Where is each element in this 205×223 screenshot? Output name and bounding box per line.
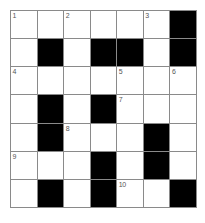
- grid-cell-open[interactable]: 8: [64, 124, 90, 151]
- grid-cell-open[interactable]: [11, 124, 37, 151]
- grid-cell-open[interactable]: [64, 67, 90, 94]
- grid-cell-open[interactable]: [117, 152, 143, 179]
- cell-number: 3: [145, 11, 149, 20]
- grid-cell-block: [144, 152, 170, 179]
- grid-cell-open[interactable]: [64, 39, 90, 66]
- grid-cell-open[interactable]: 9: [11, 152, 37, 179]
- grid-cell-open[interactable]: [38, 67, 64, 94]
- grid-cell-open[interactable]: [144, 95, 170, 122]
- cell-number: 5: [119, 67, 123, 76]
- grid-cell-block: [38, 39, 64, 66]
- grid-cell-open[interactable]: [11, 39, 37, 66]
- cell-number: 6: [172, 67, 176, 76]
- grid-cell-block: [91, 39, 117, 66]
- cell-number: 4: [13, 67, 17, 76]
- grid-cell-open[interactable]: [144, 67, 170, 94]
- crossword-grid[interactable]: 12345678910: [10, 10, 197, 208]
- grid-cell-open[interactable]: [170, 95, 196, 122]
- grid-cell-block: [170, 39, 196, 66]
- grid-cell-open[interactable]: [144, 180, 170, 207]
- grid-cell-block: [170, 180, 196, 207]
- cell-number: 7: [119, 95, 123, 104]
- cell-number: 9: [13, 152, 17, 161]
- grid-cell-block: [91, 152, 117, 179]
- grid-cell-open[interactable]: [64, 180, 90, 207]
- grid-cell-open[interactable]: [11, 180, 37, 207]
- grid-cell-open[interactable]: 10: [117, 180, 143, 207]
- grid-cell-open[interactable]: 3: [144, 11, 170, 38]
- grid-cell-open[interactable]: [91, 124, 117, 151]
- grid-cell-open[interactable]: 5: [117, 67, 143, 94]
- grid-cell-block: [38, 180, 64, 207]
- grid-cell-block: [170, 11, 196, 38]
- cell-number: 10: [119, 180, 126, 189]
- cell-number: 8: [66, 124, 70, 133]
- grid-cell-open[interactable]: 6: [170, 67, 196, 94]
- grid-cell-open[interactable]: [38, 11, 64, 38]
- grid-cell-open[interactable]: [117, 124, 143, 151]
- grid-cell-open[interactable]: 7: [117, 95, 143, 122]
- grid-cell-open[interactable]: [64, 152, 90, 179]
- grid-cell-open[interactable]: [144, 39, 170, 66]
- grid-cell-block: [144, 124, 170, 151]
- grid-cell-open[interactable]: [170, 124, 196, 151]
- grid-cell-open[interactable]: [91, 11, 117, 38]
- grid-cell-open[interactable]: [38, 152, 64, 179]
- cell-number: 2: [66, 11, 70, 20]
- grid-cell-open[interactable]: [170, 152, 196, 179]
- grid-cell-open[interactable]: [91, 67, 117, 94]
- grid-cell-open[interactable]: 1: [11, 11, 37, 38]
- grid-cell-open[interactable]: 4: [11, 67, 37, 94]
- grid-cell-open[interactable]: [64, 95, 90, 122]
- grid-cell-open[interactable]: [117, 11, 143, 38]
- grid-cell-block: [91, 180, 117, 207]
- grid-cell-block: [38, 95, 64, 122]
- cell-number: 1: [13, 11, 17, 20]
- grid-cell-block: [117, 39, 143, 66]
- grid-cell-block: [38, 124, 64, 151]
- grid-cell-block: [91, 95, 117, 122]
- grid-cell-open[interactable]: 2: [64, 11, 90, 38]
- grid-cell-open[interactable]: [11, 95, 37, 122]
- crossword-puzzle: 12345678910: [0, 0, 205, 223]
